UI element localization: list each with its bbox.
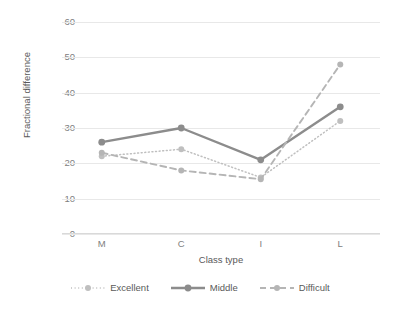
x-tick-label-l: L bbox=[320, 238, 360, 249]
data-point bbox=[98, 139, 105, 146]
series-excellent bbox=[99, 118, 344, 181]
line-chart: Fractional difference 0102030405060 MCIL… bbox=[0, 0, 401, 311]
series-line bbox=[102, 107, 341, 160]
legend-item-difficult[interactable]: Difficult bbox=[260, 282, 330, 294]
data-point bbox=[257, 156, 264, 163]
legend-item-middle[interactable]: Middle bbox=[171, 282, 238, 294]
legend-swatch-middle-icon bbox=[171, 282, 205, 294]
legend-label: Middle bbox=[210, 282, 238, 294]
data-point bbox=[178, 125, 185, 132]
data-point bbox=[178, 146, 184, 152]
data-point bbox=[337, 118, 343, 124]
x-tick-label-m: M bbox=[82, 238, 122, 249]
data-point bbox=[99, 150, 105, 156]
y-axis-title: Fractional difference bbox=[18, 0, 36, 215]
gridline bbox=[62, 234, 380, 235]
series-line bbox=[102, 64, 341, 179]
legend-label: Excellent bbox=[110, 282, 149, 294]
series-layer bbox=[62, 22, 380, 234]
x-tick-label-i: I bbox=[241, 238, 281, 249]
x-tick-label-c: C bbox=[161, 238, 201, 249]
data-point bbox=[337, 103, 344, 110]
data-point bbox=[258, 176, 264, 182]
legend-swatch-difficult-icon bbox=[260, 282, 294, 294]
legend-swatch-excellent-icon bbox=[71, 282, 105, 294]
chart-legend: ExcellentMiddleDifficult bbox=[0, 282, 401, 294]
data-point bbox=[337, 61, 343, 67]
legend-item-excellent[interactable]: Excellent bbox=[71, 282, 149, 294]
plot-area bbox=[62, 22, 380, 234]
legend-label: Difficult bbox=[299, 282, 330, 294]
data-point bbox=[178, 167, 184, 173]
x-axis-title: Class type bbox=[62, 254, 380, 265]
